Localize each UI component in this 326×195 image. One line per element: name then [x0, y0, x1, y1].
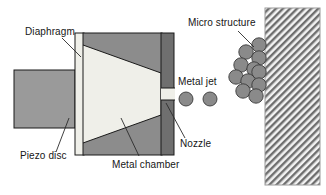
droplet [179, 92, 193, 106]
substrate [265, 8, 320, 185]
label-metal-chamber: Metal chamber [112, 159, 179, 170]
diagram-canvas: Diaphragm Piezo disc Metal chamber Nozzl… [0, 0, 326, 195]
label-piezo-disc: Piezo disc [20, 150, 67, 161]
metal-jet-droplets [179, 92, 217, 106]
structure-droplet [239, 45, 253, 59]
label-nozzle: Nozzle [180, 138, 211, 149]
piezo-disc [14, 70, 75, 128]
nozzle-orifice [161, 88, 175, 100]
structure-droplet [249, 89, 263, 103]
structure-droplet [252, 38, 266, 52]
micro-structure-cluster [229, 38, 266, 103]
label-diaphragm: Diaphragm [25, 26, 75, 37]
label-metal-jet: Metal jet [178, 76, 217, 87]
structure-droplet [236, 84, 250, 98]
droplet [203, 92, 217, 106]
label-micro-structure: Micro structure [188, 17, 256, 28]
